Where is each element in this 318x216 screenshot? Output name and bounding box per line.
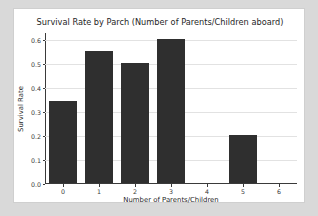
y-tick-label: 0.3 — [31, 109, 41, 116]
x-tick-label: 2 — [133, 188, 137, 195]
bar — [229, 135, 258, 183]
bar — [121, 63, 150, 183]
x-tick-mark — [63, 184, 64, 187]
y-tick-label: 0.2 — [31, 133, 41, 140]
y-tick-label: 0.1 — [31, 157, 41, 164]
x-axis-label: Number of Parents/Children — [45, 196, 297, 204]
y-tick-mark — [43, 88, 46, 89]
y-tick-mark — [43, 160, 46, 161]
x-tick-mark — [99, 184, 100, 187]
x-tick-label: 1 — [97, 188, 101, 195]
x-tick-label: 6 — [277, 188, 281, 195]
x-tick-label: 3 — [169, 188, 173, 195]
x-tick-mark — [171, 184, 172, 187]
x-tick-mark — [207, 184, 208, 187]
bar — [49, 101, 78, 183]
plot-axes: Survival Rate Number of Parents/Children… — [45, 33, 297, 184]
matplotlib-figure: Survival Rate by Parch (Number of Parent… — [13, 8, 305, 203]
chart-title: Survival Rate by Parch (Number of Parent… — [14, 17, 306, 27]
x-tick-mark — [279, 184, 280, 187]
screenshot-root: Survival Rate by Parch (Number of Parent… — [0, 0, 318, 216]
y-axis-label: Survival Rate — [17, 86, 25, 132]
y-tick-label: 0.0 — [31, 181, 41, 188]
y-tick-mark — [43, 184, 46, 185]
bar — [157, 39, 186, 183]
x-tick-mark — [135, 184, 136, 187]
y-tick-mark — [43, 40, 46, 41]
x-tick-label: 0 — [61, 188, 65, 195]
bar — [85, 51, 114, 183]
y-tick-label: 0.6 — [31, 37, 41, 44]
y-tick-label: 0.5 — [31, 61, 41, 68]
x-tick-mark — [243, 184, 244, 187]
y-tick-mark — [43, 64, 46, 65]
x-tick-label: 4 — [205, 188, 209, 195]
y-tick-mark — [43, 136, 46, 137]
y-tick-mark — [43, 112, 46, 113]
y-tick-label: 0.4 — [31, 85, 41, 92]
y-axis-spine — [45, 33, 46, 184]
x-tick-label: 5 — [241, 188, 245, 195]
